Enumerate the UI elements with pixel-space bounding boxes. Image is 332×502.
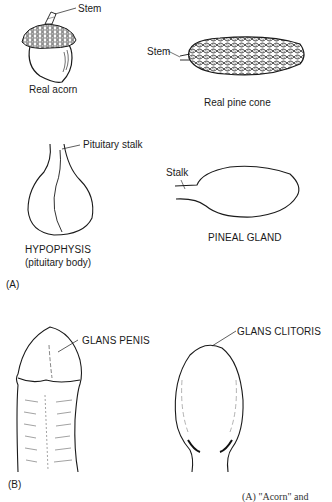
pineal-gland-drawing	[175, 166, 299, 217]
acorn-stem-label: Stem	[78, 4, 101, 14]
acorn-drawing	[22, 8, 76, 82]
pine-cone-stem-label: Stem	[147, 47, 170, 57]
pituitary-stalk-label: Pituitary stalk	[83, 140, 142, 150]
pineal-gland-title: PINEAL GLAND	[208, 233, 282, 243]
glans-clitoris-label: GLANS CLITORIS	[237, 327, 321, 337]
hypophysis-title: HYPOPHYSIS	[25, 245, 91, 255]
panel-a-marker: (A)	[6, 280, 19, 290]
glans-penis-drawing	[17, 327, 82, 472]
hypophysis-drawing	[28, 144, 93, 235]
panel-b-marker: (B)	[8, 480, 21, 490]
pine-cone-drawing	[168, 37, 304, 75]
figure-caption-partial: (A) "Acorn" and	[242, 491, 308, 502]
hypophysis-subtitle: (pituitary body)	[25, 258, 91, 268]
pine-cone-title: Real pine cone	[204, 98, 271, 108]
acorn-title: Real acorn	[29, 85, 77, 95]
pineal-stalk-label: Stalk	[166, 168, 188, 178]
glans-penis-label: GLANS PENIS	[82, 336, 150, 346]
glans-clitoris-drawing	[175, 331, 243, 472]
